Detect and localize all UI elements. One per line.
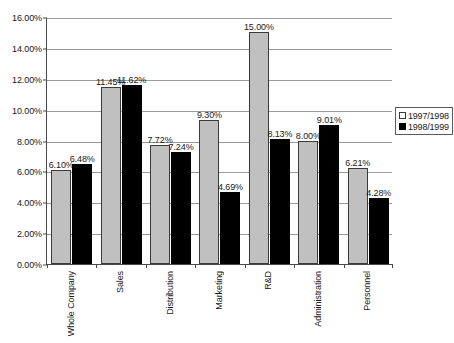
bar-value-label: 4.28% bbox=[366, 188, 391, 198]
bar-series-1998-1999: 11.62% bbox=[122, 85, 142, 264]
bar-series-1998-1999: 6.48% bbox=[72, 164, 92, 264]
bar-value-label: 6.48% bbox=[70, 154, 95, 164]
bar-series-1997-1998: 9.30% bbox=[199, 120, 219, 264]
bar-series-1997-1998: 6.21% bbox=[348, 168, 368, 264]
bar-value-label: 15.00% bbox=[244, 22, 274, 32]
plot-area: 0.00%2.00%4.00%6.00%8.00%10.00%12.00%14.… bbox=[46, 18, 392, 265]
x-axis-category-label: Sales bbox=[115, 271, 125, 293]
x-axis-tick-mark bbox=[96, 264, 97, 268]
bar-value-label: 8.13% bbox=[267, 129, 292, 139]
x-axis-tick-mark bbox=[47, 264, 48, 268]
y-axis-tick-label: 0.00% bbox=[17, 260, 42, 270]
bar-group: 9.30%4.69% bbox=[195, 18, 244, 264]
y-axis-tick-label: 10.00% bbox=[12, 106, 42, 116]
bar-value-label: 8.00% bbox=[296, 131, 321, 141]
bar-group: 11.45%11.62% bbox=[96, 18, 145, 264]
y-axis-tick-label: 4.00% bbox=[17, 198, 42, 208]
x-axis-category-label: Whole Company bbox=[66, 271, 76, 336]
legend-label: 1998/1999 bbox=[408, 122, 449, 132]
y-axis-tick-label: 6.00% bbox=[17, 167, 42, 177]
bar-group: 6.21%4.28% bbox=[344, 18, 393, 264]
bar-series-1998-1999: 9.01% bbox=[319, 125, 339, 264]
bar-value-label: 9.30% bbox=[197, 110, 222, 120]
x-axis-tick-mark bbox=[392, 264, 393, 268]
bar-group: 8.00%9.01% bbox=[294, 18, 343, 264]
x-axis-category-label: Personnel bbox=[362, 271, 372, 311]
bar-value-label: 7.24% bbox=[169, 142, 194, 152]
y-axis-tick-label: 14.00% bbox=[12, 44, 42, 54]
x-axis-tick-mark bbox=[195, 264, 196, 268]
x-axis-tick-mark bbox=[245, 264, 246, 268]
bar-group: 15.00%8.13% bbox=[245, 18, 294, 264]
y-axis-tick-label: 8.00% bbox=[17, 137, 42, 147]
bar-value-label: 4.69% bbox=[218, 182, 243, 192]
bar-group: 6.10%6.48% bbox=[47, 18, 96, 264]
bar-value-label: 11.62% bbox=[117, 75, 146, 85]
bar-series-1997-1998: 15.00% bbox=[249, 32, 269, 264]
chart-legend: 1997/19981998/1999 bbox=[395, 107, 453, 135]
bar-series-1998-1999: 4.28% bbox=[369, 198, 389, 264]
legend-swatch-icon bbox=[399, 112, 406, 119]
bar-series-1998-1999: 8.13% bbox=[270, 139, 290, 265]
bar-value-label: 9.01% bbox=[317, 115, 342, 125]
bar-chart: 0.00%2.00%4.00%6.00%8.00%10.00%12.00%14.… bbox=[0, 0, 454, 343]
bar-series-1997-1998: 7.72% bbox=[150, 145, 170, 264]
legend-label: 1997/1998 bbox=[408, 111, 449, 121]
bar-series-1997-1998: 6.10% bbox=[51, 170, 71, 264]
gridline bbox=[47, 264, 392, 265]
legend-item: 1997/1998 bbox=[399, 110, 449, 121]
bar-series-1997-1998: 8.00% bbox=[298, 141, 318, 265]
y-axis-tick-label: 16.00% bbox=[12, 13, 42, 23]
x-axis-category-label: R&D bbox=[263, 271, 273, 290]
x-axis-tick-mark bbox=[294, 264, 295, 268]
y-axis-tick-label: 12.00% bbox=[12, 75, 42, 85]
bar-group: 7.72%7.24% bbox=[146, 18, 195, 264]
legend-swatch-icon bbox=[399, 123, 406, 130]
bar-value-label: 6.21% bbox=[345, 158, 370, 168]
bar-series-1998-1999: 4.69% bbox=[220, 192, 240, 264]
x-axis-tick-mark bbox=[344, 264, 345, 268]
y-axis-tick-label: 2.00% bbox=[17, 229, 42, 239]
bar-series-1997-1998: 11.45% bbox=[101, 87, 121, 264]
x-axis-tick-mark bbox=[146, 264, 147, 268]
bar-series-1998-1999: 7.24% bbox=[171, 152, 191, 264]
x-axis-category-label: Marketing bbox=[214, 271, 224, 310]
legend-item: 1998/1999 bbox=[399, 121, 449, 132]
x-axis-category-label: Distribution bbox=[165, 271, 175, 315]
x-axis-category-label: Administration bbox=[313, 271, 323, 327]
